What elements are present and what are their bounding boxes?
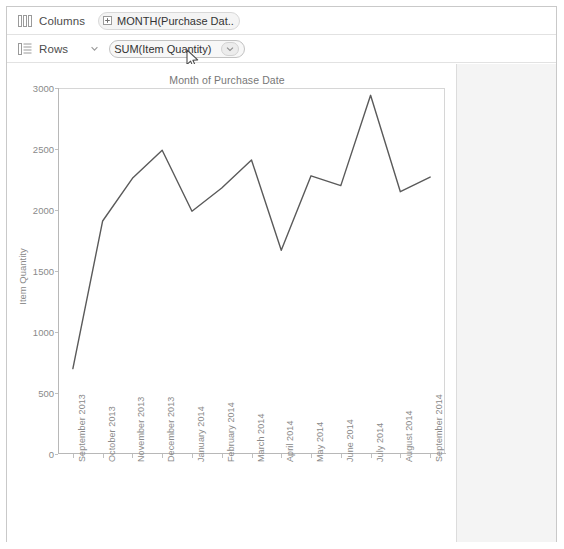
y-tick-label: 2500	[12, 144, 54, 155]
view-right-divider	[456, 64, 457, 542]
plus-expand-icon[interactable]	[103, 16, 112, 25]
tableau-worksheet-screenshot: Columns MONTH(Purchase Dat.. Rows	[0, 0, 564, 549]
x-tick-mark	[400, 454, 401, 458]
pill-month-purchase-date-label: MONTH(Purchase Dat..	[117, 13, 234, 29]
columns-shelf[interactable]: Columns MONTH(Purchase Dat..	[7, 7, 556, 35]
rows-list-icon	[18, 43, 32, 55]
y-tick-label: 3000	[12, 83, 54, 94]
worksheet-empty-panel	[456, 64, 556, 542]
x-tick-mark	[430, 454, 431, 458]
y-tick-label: 2000	[12, 205, 54, 216]
chart-view-area: Month of Purchase Date Item Quantity 050…	[7, 64, 556, 542]
x-tick-mark	[73, 454, 74, 458]
y-axis-title: Item Quantity	[17, 237, 28, 317]
x-tick-mark	[252, 454, 253, 458]
x-tick-mark	[192, 454, 193, 458]
x-tick-mark	[371, 454, 372, 458]
x-tick-mark	[311, 454, 312, 458]
x-tick-mark	[281, 454, 282, 458]
y-tick-label: 1500	[12, 266, 54, 277]
x-tick-mark	[162, 454, 163, 458]
x-tick-mark	[222, 454, 223, 458]
pill-sum-item-quantity-label: SUM(Item Quantity)	[114, 41, 211, 57]
x-tick-mark	[132, 454, 133, 458]
line-series-path	[73, 95, 430, 368]
x-tick-mark	[103, 454, 104, 458]
chevron-down-icon	[226, 46, 234, 52]
rows-shelf-chevron-down-icon[interactable]	[90, 44, 99, 53]
shelf-area: Columns MONTH(Purchase Dat.. Rows	[7, 7, 556, 64]
chart-title: Month of Purchase Date	[7, 74, 447, 86]
rows-shelf[interactable]: Rows SUM(Item Quantity)	[7, 35, 556, 63]
columns-shelf-label: Columns	[39, 15, 85, 27]
y-tick-mark	[55, 454, 58, 455]
rows-shelf-label: Rows	[39, 43, 68, 55]
y-axis: Item Quantity 050010001500200025003000	[7, 64, 54, 542]
y-tick-label: 0	[12, 449, 54, 460]
pill-sum-item-quantity[interactable]: SUM(Item Quantity)	[109, 40, 245, 58]
y-tick-label: 1000	[12, 327, 54, 338]
columns-grid-icon	[18, 15, 32, 27]
line-series-svg	[58, 88, 445, 454]
y-tick-label: 500	[12, 388, 54, 399]
pill-month-purchase-date[interactable]: MONTH(Purchase Dat..	[98, 12, 240, 30]
pill-dropdown-button[interactable]	[221, 42, 239, 56]
x-tick-mark	[341, 454, 342, 458]
